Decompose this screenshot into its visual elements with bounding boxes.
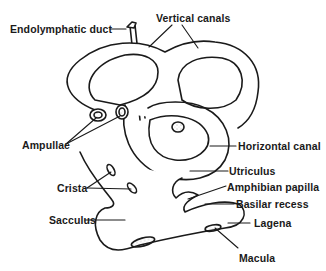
label-macula: Macula [239,252,275,264]
label-vertical-canals: Vertical canals [156,12,230,24]
label-crista: Crista [57,182,87,194]
horizontal-ampulla [172,122,184,132]
label-lagena: Lagena [254,217,291,229]
label-amphibian-papilla: Amphibian papilla [227,181,319,193]
label-endolymphatic-duct: Endolymphatic duct [10,23,112,35]
label-utriculus: Utriculus [229,165,275,177]
label-basilar-recess: Basilar recess [236,198,309,210]
labyrinth-drawing [0,0,326,271]
label-horizontal-canal: Horizontal canal [238,140,321,152]
inner-ear-diagram: Endolymphatic duct Vertical canals Ampul… [0,0,326,271]
label-sacculus: Sacculus [49,214,96,226]
label-ampullae: Ampullae [22,139,70,151]
